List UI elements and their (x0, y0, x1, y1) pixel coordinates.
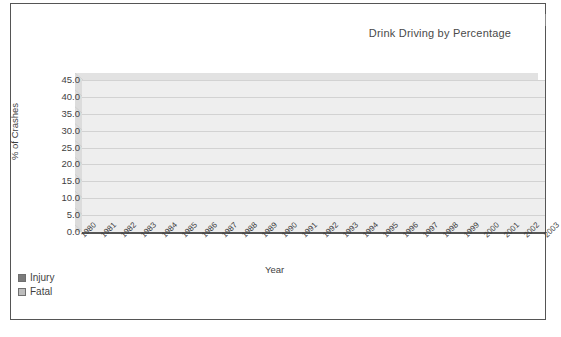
y-tick-label: 5.0 (67, 210, 80, 220)
y-tick-label: 15.0 (62, 176, 81, 186)
x-axis-tick-labels: 1980198119821983198419851986198719881989… (82, 233, 552, 273)
gridline (82, 148, 545, 149)
chart-legend: InjuryFatal (18, 272, 54, 300)
gridline (82, 215, 545, 216)
chart-gridlines (82, 80, 545, 232)
y-tick-label: 35.0 (62, 109, 81, 119)
y-axis-tick-labels: 0.05.010.015.020.025.030.035.040.045.0 (46, 73, 80, 239)
gridline (82, 181, 545, 182)
legend-item[interactable]: Injury (18, 272, 54, 283)
gridline (82, 198, 545, 199)
chart-plot-wrapper: 0.05.010.015.020.025.030.035.040.045.0 %… (0, 0, 561, 337)
y-tick-label: 40.0 (62, 92, 81, 102)
gridline (82, 97, 545, 98)
gridline (82, 80, 545, 81)
y-tick-label: 45.0 (62, 75, 81, 85)
gridline (82, 164, 545, 165)
chart-plot-area (82, 80, 545, 232)
legend-label: Fatal (30, 286, 52, 297)
x-axis-title: Year (265, 264, 284, 275)
gridline (82, 114, 545, 115)
legend-swatch-icon (18, 274, 26, 282)
y-tick-label: 10.0 (62, 193, 81, 203)
legend-item[interactable]: Fatal (18, 286, 54, 297)
y-tick-label: 25.0 (62, 143, 81, 153)
y-axis-title: % of Crashes (9, 87, 20, 177)
legend-label: Injury (30, 272, 54, 283)
y-tick-label: 20.0 (62, 159, 81, 169)
gridline (82, 131, 545, 132)
legend-swatch-icon (18, 288, 26, 296)
y-tick-label: 30.0 (62, 126, 81, 136)
chart-back-wall-top (75, 73, 538, 80)
